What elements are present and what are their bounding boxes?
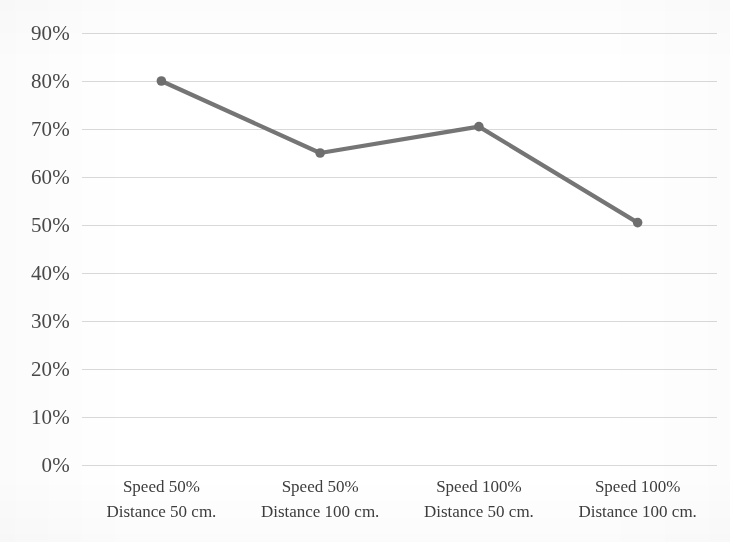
data-point-marker (474, 122, 484, 132)
category-label-line-1: Speed 50% (241, 474, 400, 499)
x-axis: Speed 50%Distance 50 cm.Speed 50%Distanc… (82, 474, 717, 536)
x-axis-category-label: Speed 50%Distance 50 cm. (82, 474, 241, 536)
y-axis-tick-label: 40% (0, 263, 70, 284)
y-axis-tick-label: 20% (0, 359, 70, 380)
series-markers (157, 76, 643, 227)
category-label-line-1: Speed 50% (82, 474, 241, 499)
line-chart: 0%10%20%30%40%50%60%70%80%90% Speed 50%D… (0, 0, 730, 542)
y-axis-tick-label: 0% (0, 455, 70, 476)
y-axis-tick-label: 50% (0, 215, 70, 236)
gridline (82, 465, 717, 466)
y-axis-tick-label: 70% (0, 119, 70, 140)
category-label-line-1: Speed 100% (400, 474, 559, 499)
category-label-line-2: Distance 50 cm. (82, 499, 241, 524)
y-axis-tick-label: 90% (0, 23, 70, 44)
category-label-line-2: Distance 50 cm. (400, 499, 559, 524)
x-axis-category-label: Speed 100%Distance 100 cm. (558, 474, 717, 536)
x-axis-category-label: Speed 50%Distance 100 cm. (241, 474, 400, 536)
y-axis: 0%10%20%30%40%50%60%70%80%90% (0, 0, 78, 542)
category-label-line-1: Speed 100% (558, 474, 717, 499)
series-line-chart (82, 33, 717, 465)
y-axis-tick-label: 30% (0, 311, 70, 332)
data-point-marker (157, 76, 167, 86)
series-polyline (161, 81, 637, 223)
category-label-line-2: Distance 100 cm. (241, 499, 400, 524)
x-axis-category-label: Speed 100%Distance 50 cm. (400, 474, 559, 536)
plot-area (82, 33, 717, 465)
y-axis-tick-label: 60% (0, 167, 70, 188)
data-point-marker (315, 148, 325, 158)
data-point-marker (633, 218, 643, 228)
category-label-line-2: Distance 100 cm. (558, 499, 717, 524)
y-axis-tick-label: 80% (0, 71, 70, 92)
y-axis-tick-label: 10% (0, 407, 70, 428)
